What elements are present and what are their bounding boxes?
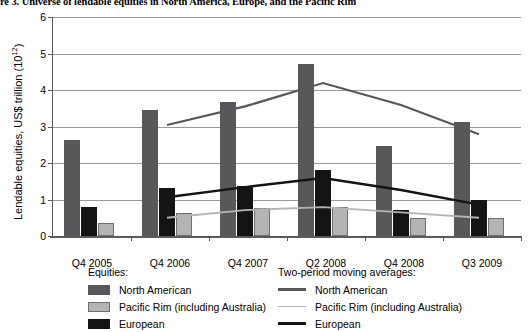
legend-moving-averages-title: Two-period moving averages: — [278, 266, 462, 278]
x-axis-tick — [287, 236, 288, 241]
legend-swatch-icon — [88, 319, 110, 329]
plot-area: Q4 2005Q4 2006Q4 2007Q2 2008Q4 2008Q3 20… — [52, 17, 520, 236]
legend-moving-averages: Two-period moving averages: North Americ… — [278, 266, 462, 332]
legend-equities-title: Equities: — [88, 266, 266, 278]
x-axis-tick — [443, 236, 444, 241]
x-axis-line — [50, 236, 521, 238]
line-series — [167, 178, 479, 205]
legend-item[interactable]: Pacific Rim (including Australia) — [278, 298, 462, 315]
x-axis-tick — [365, 236, 366, 241]
legend-line-icon — [278, 302, 306, 312]
y-axis-title-exponent: 12 — [10, 47, 19, 55]
moving-average-lines — [53, 17, 521, 236]
y-tick-label: 6 — [24, 12, 46, 22]
y-tick-label: 4 — [24, 85, 46, 95]
x-axis-tick — [521, 236, 522, 241]
x-axis-tick — [209, 236, 210, 241]
legend-equities: Equities: North AmericanPacific Rim (inc… — [88, 266, 266, 332]
legend-item-label: Pacific Rim (including Australia) — [119, 301, 266, 313]
y-axis-title-wrap: Lendable equities, US$ trillion (1012) — [0, 17, 20, 236]
legend-swatch-icon — [88, 302, 110, 312]
y-tick-label: 3 — [24, 122, 46, 132]
legend-item[interactable]: European — [88, 315, 266, 332]
legend-swatch-icon — [88, 285, 110, 295]
line-series — [167, 83, 479, 134]
legend-line-icon — [278, 319, 306, 329]
legend-item[interactable]: European — [278, 315, 462, 332]
legend-item-label: North American — [119, 284, 191, 296]
figure-title: re 3. Universe of lendable equities in N… — [0, 0, 528, 9]
legend-item-label: European — [315, 318, 361, 330]
y-tick-label: 0 — [24, 231, 46, 241]
x-axis-tick — [131, 236, 132, 241]
y-tick-labels: 0123456 — [22, 17, 46, 236]
legend-item[interactable]: North American — [278, 281, 462, 298]
legend-item[interactable]: North American — [88, 281, 266, 298]
y-tick-label: 1 — [24, 195, 46, 205]
line-series — [167, 207, 479, 218]
legend-item[interactable]: Pacific Rim (including Australia) — [88, 298, 266, 315]
y-tick-label: 5 — [24, 49, 46, 59]
y-tick-label: 2 — [24, 158, 46, 168]
legend-item-label: North American — [315, 284, 387, 296]
legend-item-label: European — [119, 318, 165, 330]
legend-line-icon — [278, 285, 306, 295]
legend-item-label: Pacific Rim (including Australia) — [315, 301, 462, 313]
y-axis-tick — [48, 236, 53, 237]
